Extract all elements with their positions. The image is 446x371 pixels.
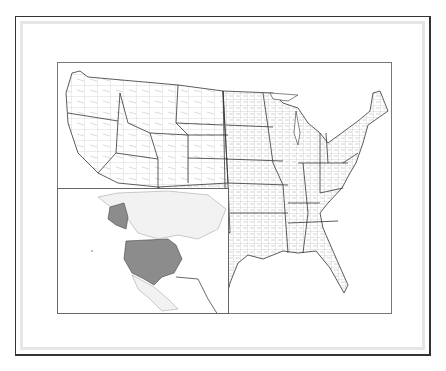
inset-svg [58,189,229,314]
texas-gulf-coast [176,277,218,314]
hawaii-dot [91,250,93,252]
contiguous-us-highlight [124,239,182,285]
alaska-highlight [108,203,128,229]
north-america-inset [57,188,229,314]
